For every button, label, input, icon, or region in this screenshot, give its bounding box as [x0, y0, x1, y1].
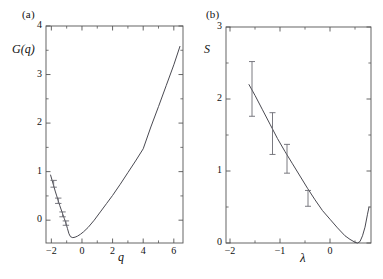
x-tick-label: 6	[162, 245, 186, 256]
y-tick-label: 2	[210, 92, 222, 103]
y-tick-label: 2	[30, 116, 42, 127]
x-tick-label: 0	[318, 245, 342, 256]
x-tick-label: 2	[101, 245, 125, 256]
panel-b: (b) S λ −2−100123	[190, 0, 383, 279]
errorbar-marker	[63, 221, 69, 225]
x-tick-label: 0	[70, 245, 94, 256]
y-tick-label: 1	[210, 164, 222, 175]
errorbar-marker	[249, 62, 255, 117]
y-tick-label: 3	[30, 68, 42, 79]
y-tick-label: 3	[210, 20, 222, 31]
x-tick-label: −1	[268, 245, 292, 256]
errorbar-marker	[59, 212, 65, 217]
errorbar-marker	[50, 180, 56, 187]
y-tick-label: 1	[30, 165, 42, 176]
errorbar-marker	[55, 198, 61, 203]
y-tick-label: 0	[210, 236, 222, 247]
x-tick-label: 4	[131, 245, 155, 256]
x-tick-label: −2	[39, 245, 63, 256]
panel-a-plot	[0, 0, 192, 279]
y-tick-label: 4	[30, 19, 42, 30]
data-curve	[51, 46, 180, 237]
figure-root: (a) G(q) q −2024601234 (b) S λ −2−100123	[0, 0, 383, 279]
y-tick-label: 0	[30, 213, 42, 224]
plot-frame	[226, 27, 371, 243]
plot-frame	[46, 26, 183, 243]
data-curve	[249, 85, 369, 243]
panel-a: (a) G(q) q −2024601234	[0, 0, 192, 279]
